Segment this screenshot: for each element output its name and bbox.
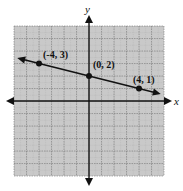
- data-point: [36, 61, 42, 67]
- point-label: (0, 2): [93, 59, 115, 71]
- y-axis-bottom-arrow-icon: [85, 178, 93, 186]
- y-axis-top-arrow-icon: [85, 15, 93, 23]
- point-label: (-4, 3): [43, 49, 68, 61]
- x-axis-label: x: [173, 95, 179, 107]
- y-axis-label: y: [84, 3, 90, 15]
- data-point: [136, 86, 142, 92]
- data-point: [86, 73, 92, 79]
- coordinate-plane: x y (-4, 3)(0, 2)(4, 1): [0, 0, 183, 191]
- point-label: (4, 1): [133, 74, 155, 86]
- x-axis-right-arrow-icon: [164, 97, 172, 105]
- x-axis-left-arrow-icon: [6, 97, 14, 105]
